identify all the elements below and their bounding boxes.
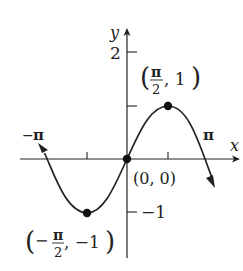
point-min-minus: − [35, 231, 48, 250]
point-origin [123, 155, 131, 163]
curve-left-arrow-icon [38, 143, 48, 153]
x-axis-label: x [230, 136, 239, 155]
paren-open: ( [25, 226, 35, 256]
point-min-rest: , −1 [64, 232, 100, 252]
x-label-pi: π [203, 126, 214, 144]
sine-graph: y x 2 −1 − π π ( π 2 , 1 ) (0, 0) ( − π … [0, 0, 243, 271]
x-label-neg-pi: π [33, 126, 44, 144]
point-min [83, 209, 91, 217]
y-axis-label: y [109, 23, 120, 42]
paren-close: ) [105, 226, 115, 256]
point-max-pi: π [151, 64, 161, 80]
paren-close: ) [191, 62, 201, 92]
point-max [164, 102, 172, 110]
x-label-neg-pi-minus: − [22, 127, 34, 143]
y-tick-label-2: 2 [110, 43, 121, 63]
curve-right-arrow-icon [206, 175, 215, 188]
point-max-den: 2 [152, 82, 160, 97]
point-min-den: 2 [54, 245, 62, 260]
y-tick-label-neg1: −1 [141, 202, 166, 222]
point-max-rest: , 1 [164, 69, 186, 89]
label-point-origin: (0, 0) [133, 169, 176, 188]
label-point-max: ( π 2 , 1 ) [140, 62, 201, 97]
label-point-min: ( − π 2 , −1 ) [25, 226, 115, 260]
point-min-pi: π [53, 227, 63, 243]
paren-open: ( [140, 62, 150, 92]
